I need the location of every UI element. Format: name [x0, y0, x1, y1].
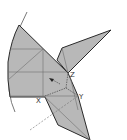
label-z: Z: [70, 71, 75, 79]
wing-flap: [57, 30, 111, 73]
label-y: Y: [78, 93, 84, 101]
label-x: X: [36, 97, 41, 105]
folding-diagram: Z X Y: [0, 0, 127, 140]
